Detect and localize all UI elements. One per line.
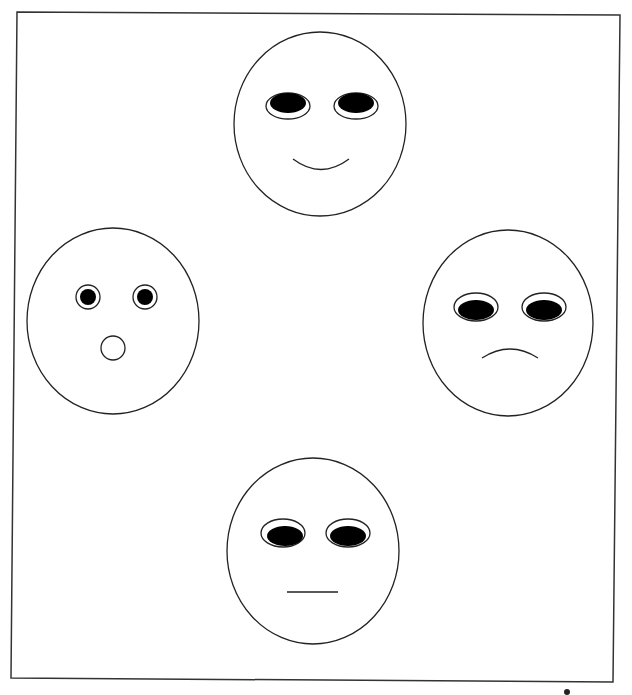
face-sad xyxy=(423,230,593,416)
faces-group xyxy=(27,32,593,644)
left-pupil xyxy=(270,93,306,113)
face-outline xyxy=(234,32,406,216)
face-happy xyxy=(234,32,406,216)
right-pupil xyxy=(330,526,366,546)
left-pupil xyxy=(458,300,494,320)
face-outline xyxy=(227,458,399,644)
right-pupil xyxy=(137,289,153,305)
face-outline xyxy=(27,228,199,414)
cursor-dot-icon xyxy=(564,689,570,695)
right-pupil xyxy=(526,300,562,320)
face-surprised xyxy=(27,228,199,414)
face-neutral xyxy=(227,458,399,644)
mouth xyxy=(101,336,125,360)
left-pupil xyxy=(267,526,303,546)
left-pupil xyxy=(80,289,96,305)
right-pupil xyxy=(338,93,374,113)
emotion-faces-diagram xyxy=(0,0,632,695)
face-outline xyxy=(423,230,593,416)
